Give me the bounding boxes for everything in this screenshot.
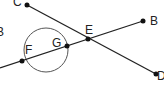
point-C: [25, 3, 30, 8]
label-C: C: [13, 0, 22, 8]
point-F: [20, 59, 25, 64]
label-D: D: [157, 70, 164, 82]
point-B: [141, 19, 146, 24]
label-E: E: [85, 24, 93, 36]
point-E: [86, 37, 91, 42]
line-C-E-D: [27, 5, 156, 74]
label-F: F: [25, 44, 32, 56]
label-G: G: [52, 37, 61, 49]
geometry-diagram: C B F G E B D: [0, 0, 164, 88]
point-G: [65, 44, 70, 49]
label-B: B: [150, 15, 158, 27]
label-B-left: B: [0, 26, 4, 38]
